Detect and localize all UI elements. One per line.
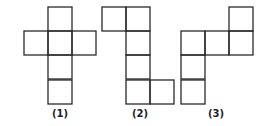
net-square <box>126 7 150 31</box>
net-square <box>48 7 72 31</box>
net-square <box>126 80 150 104</box>
cube-nets-diagram: (1) (2) (3) <box>0 0 268 126</box>
net-figure-2 <box>102 7 174 104</box>
net-square <box>126 31 150 55</box>
net-figure-1 <box>24 7 96 104</box>
net-square <box>72 31 96 55</box>
net-square <box>181 31 205 55</box>
figure-1-label: (1) <box>52 108 68 119</box>
figure-3-label: (3) <box>208 108 224 119</box>
net-square <box>48 55 72 79</box>
net-square <box>102 7 126 31</box>
net-square <box>229 7 253 31</box>
net-square <box>181 80 205 104</box>
net-square <box>150 80 174 104</box>
net-square <box>48 31 72 55</box>
net-square <box>229 31 253 55</box>
net-square <box>205 31 229 55</box>
net-square <box>24 31 48 55</box>
figure-2-label: (2) <box>132 108 148 119</box>
net-square <box>48 80 72 104</box>
net-figure-3 <box>181 7 253 104</box>
net-square <box>126 55 150 79</box>
net-square <box>181 55 205 79</box>
